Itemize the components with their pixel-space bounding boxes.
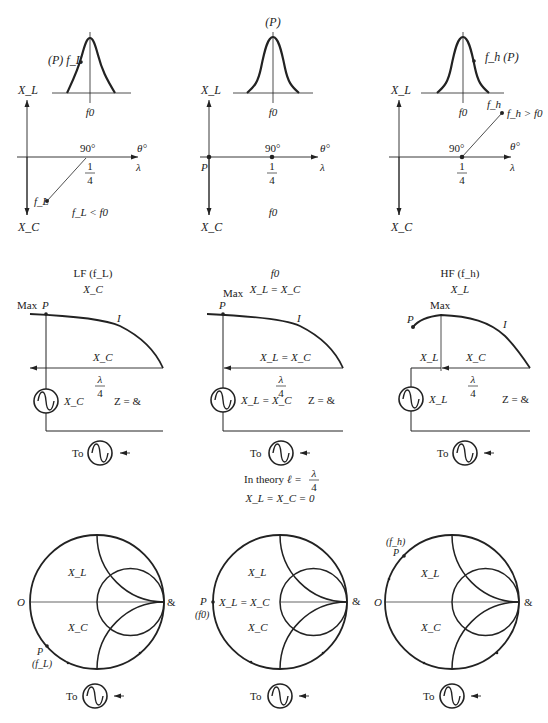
to-label: To	[250, 447, 262, 459]
middle-panel-high: HF (f_h) X_L Max P I X_L X_C λ 4 X_L Z =…	[399, 267, 530, 465]
curve-marker-label: f_h (P)	[485, 50, 519, 64]
line-label: X_C	[465, 351, 486, 363]
source-label: X_C	[63, 395, 84, 407]
middle-panel-center: f0 X_L = X_C Max P I X_L = X_C λ 4 X_L =…	[207, 267, 343, 465]
f0-label: f0	[269, 106, 278, 118]
max-label: Max	[430, 299, 451, 311]
p-label: P	[218, 299, 226, 311]
upper-region-label: X_L	[247, 566, 266, 578]
current-label: I	[116, 312, 122, 324]
load-label: Z = &	[308, 394, 335, 406]
load-label: Z = &	[114, 395, 141, 407]
mid-region-label: X_L = X_C	[218, 596, 270, 608]
panel-subtitle: X_L = X_C	[249, 283, 301, 295]
theta-label: θ°	[320, 142, 330, 154]
f0-label: f0	[459, 106, 468, 118]
panel-title: HF (f_h)	[441, 267, 480, 280]
quarter-numerator: 1	[87, 160, 93, 172]
quarter-numerator: 1	[269, 160, 275, 172]
p-freq-label: (f0)	[195, 609, 210, 621]
ac-source-icon	[83, 684, 107, 708]
upper-region-label: X_L	[67, 566, 86, 578]
left-label: O	[17, 596, 25, 608]
lower-region-label: X_C	[247, 621, 268, 633]
quarter-denominator: 4	[459, 174, 465, 186]
middle-panel-low: LF (f_L) X_C Max P I X_C λ 4 X_C Z = & T…	[17, 267, 163, 465]
to-label: To	[250, 690, 262, 702]
smith-chart-center: P (f0) & X_L X_L = X_C X_C To	[195, 535, 361, 708]
lambda-numerator: λ	[278, 373, 284, 385]
quarter-denominator: 4	[269, 174, 275, 186]
point-fl-label: f_L	[34, 195, 49, 207]
right-label: &	[352, 595, 361, 607]
lambda-denominator: 4	[97, 387, 103, 399]
right-label: &	[524, 596, 533, 608]
theory-frac-num: λ	[311, 467, 317, 479]
line-label: X_C	[92, 351, 113, 363]
theory-prefix: In theory	[244, 473, 285, 485]
p-label: P	[406, 313, 414, 325]
axis-xl-label: X_L	[390, 83, 411, 97]
load-label: Z = &	[502, 393, 529, 405]
smith-chart-high: O & (f_h) P X_L X_C To	[374, 535, 533, 708]
max-label: Max	[223, 287, 244, 299]
axis-xc-label: X_C	[390, 220, 413, 234]
current-label: I	[296, 312, 302, 324]
axis-xl-label: X_L	[17, 83, 38, 97]
upper-region-label: X_L	[420, 567, 439, 579]
condition-label: f_h > f0	[507, 107, 543, 119]
top-panel-center: (P) f0 X_L X_C P 90° θ° λ 1 4 f0	[200, 15, 330, 234]
angle-label: 90°	[265, 142, 280, 154]
source-label: X_L	[428, 393, 447, 405]
current-label: I	[502, 318, 508, 330]
ac-source-icon	[211, 388, 235, 412]
panel-title: LF (f_L)	[74, 267, 113, 280]
condition-label: f_L < f0	[72, 206, 108, 218]
lambda-numerator: λ	[97, 373, 103, 385]
panel-subtitle: X_C	[82, 283, 103, 295]
left-label: O	[374, 596, 382, 608]
theory-line2: X_L = X_C = 0	[244, 492, 315, 504]
diagram-canvas: (P) f_L f0 X_L X_C 90° θ° λ 1 4 f_L f_L …	[0, 0, 548, 723]
lambda-label: λ	[319, 161, 325, 173]
curve-marker-label: (P)	[265, 15, 280, 29]
left-label: P	[199, 595, 207, 607]
quarter-numerator: 1	[459, 160, 465, 172]
panel-subtitle: X_L	[450, 283, 469, 295]
ac-source-icon	[34, 389, 58, 413]
angle-label: 90°	[80, 142, 95, 154]
theory-note: In theory ℓ = λ 4 X_L = X_C = 0	[244, 467, 319, 504]
diagram-svg: (P) f_L f0 X_L X_C 90° θ° λ 1 4 f_L f_L …	[0, 0, 548, 723]
to-label: To	[66, 690, 78, 702]
to-label: To	[437, 447, 449, 459]
theta-label: θ°	[510, 140, 520, 152]
lower-region-label: X_C	[67, 621, 88, 633]
ac-source-icon	[269, 441, 293, 465]
source-label: X_L = X_C	[240, 394, 292, 406]
ac-source-icon	[440, 684, 464, 708]
f0-label: f0	[86, 106, 95, 118]
right-label: &	[167, 596, 176, 608]
axis-xl-label: X_L	[200, 83, 221, 97]
p-label: P	[41, 299, 49, 311]
axis-xc-label: X_C	[200, 220, 223, 234]
ac-source-icon	[268, 684, 292, 708]
smith-chart-low: O & X_L X_C P (f_L) To	[17, 535, 176, 708]
point-p-label: P	[200, 161, 208, 173]
line-label-left: X_L	[419, 351, 438, 363]
angle-label: 90°	[449, 142, 464, 154]
lambda-denominator: 4	[470, 387, 476, 399]
p-label: P	[392, 547, 399, 558]
to-label: To	[423, 690, 435, 702]
to-label: To	[72, 447, 84, 459]
p-freq-label: (f_L)	[32, 658, 53, 670]
curve-marker-label: (P) f_L	[48, 53, 83, 67]
panel-title: f0	[271, 267, 280, 279]
ac-source-icon	[399, 387, 423, 411]
theta-label: θ°	[137, 142, 147, 154]
top-panel-high: f_h (P) f0 f_h f_h > f0 X_L X_C 90° θ° λ…	[389, 32, 543, 234]
quarter-denominator: 4	[87, 174, 93, 186]
p-label: P	[36, 646, 43, 657]
max-label: Max	[17, 299, 38, 311]
lower-region-label: X_C	[420, 621, 441, 633]
